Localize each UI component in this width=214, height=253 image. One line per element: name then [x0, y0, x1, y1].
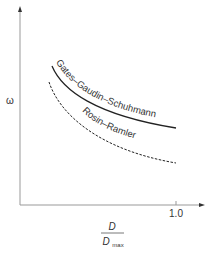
- x-tick-label: 1.0: [169, 208, 183, 219]
- x-label-numerator: D: [108, 221, 115, 232]
- chart: 1.0 ω D D max Gates–Gaudin–Schuhmann Ros…: [0, 0, 214, 253]
- x-label-denominator-sub: max: [112, 242, 123, 248]
- x-axis-arrow-icon: [199, 203, 205, 207]
- y-axis-label: ω: [6, 95, 14, 106]
- x-label-denominator: D: [102, 236, 109, 247]
- y-axis-arrow-icon: [18, 6, 22, 12]
